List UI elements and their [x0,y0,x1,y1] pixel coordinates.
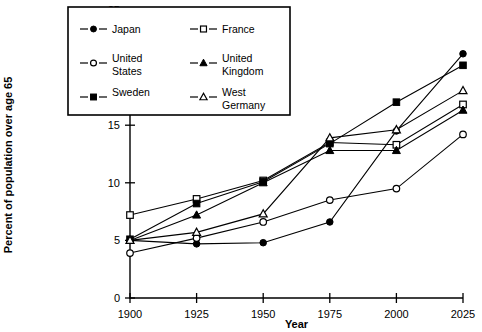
data-point [460,131,467,138]
data-point [260,219,267,226]
legend-label-line1: United [112,52,143,64]
x-tick-label: 2025 [451,308,475,320]
data-point [459,86,467,93]
data-point [460,62,467,69]
line-chart-svg: 0510152025190019251950197520002025 Japan… [0,0,482,332]
x-tick-label: 1925 [184,308,208,320]
data-point [393,185,400,192]
legend-marker-filled-circle-icon [91,26,97,32]
series-line [130,134,463,253]
chart-legend: JapanFranceUnitedStatesUnitedKingdomSwed… [68,7,290,115]
x-tick-label: 1975 [318,308,342,320]
data-point [127,250,134,257]
data-point [260,239,267,246]
legend-marker-filled-square-icon [91,94,97,100]
data-point [260,178,267,185]
y-tick-label: 10 [108,177,120,189]
data-point [193,211,201,218]
data-point [193,200,200,207]
series-united-kingdom [126,106,467,243]
legend-label: France [222,23,255,35]
x-tick-label: 2000 [384,308,408,320]
legend-label-line2: Kingdom [222,65,264,77]
y-tick-label: 0 [114,292,120,304]
series-line [130,104,463,215]
data-point [127,212,134,219]
x-tick-label: 1950 [251,308,275,320]
legend-label-line1: West [222,86,246,98]
legend-label-line1: United [222,52,253,64]
legend-marker-open-circle-icon [91,60,97,66]
data-point [460,51,467,58]
x-axis-title: Year [285,318,309,330]
legend-label-line1: Sweden [112,86,150,98]
x-tick-label: 1900 [118,308,142,320]
legend-label-line2: States [112,65,142,77]
legend-label: Japan [112,23,141,35]
data-point [393,99,400,106]
y-axis-title: Percent of population over age 65 [2,77,14,254]
y-tick-label: 15 [108,119,120,131]
chart-container: 0510152025190019251950197520002025 Japan… [0,0,482,332]
y-tick-label: 5 [114,234,120,246]
legend-marker-open-square-icon [201,26,207,32]
series-united-states [127,131,467,256]
data-point [326,146,334,153]
data-point [327,219,334,226]
legend-label-line2: Germany [222,99,266,111]
data-point [327,197,334,204]
